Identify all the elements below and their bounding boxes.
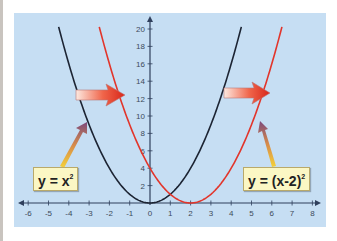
x-tick-label: 2 bbox=[188, 209, 193, 218]
pointer-arrow-left bbox=[60, 122, 87, 168]
equation-label-y-equals-x-squared: y = x2 bbox=[33, 167, 78, 191]
y-axis-up-arrow-icon bbox=[147, 16, 153, 22]
equation-exponent: 2 bbox=[301, 173, 305, 180]
y-tick-label: 4 bbox=[141, 164, 146, 173]
y-tick-label: 18 bbox=[136, 42, 145, 51]
equation-label-y-equals-x-minus-2-squared: y = (x-2)2 bbox=[243, 167, 310, 191]
y-tick-label: 12 bbox=[136, 95, 145, 104]
x-tick-label: -3 bbox=[86, 209, 94, 218]
equation-text: y = (x-2) bbox=[248, 173, 301, 189]
x-tick-label: -2 bbox=[106, 209, 114, 218]
x-tick-label: 4 bbox=[229, 209, 234, 218]
pointer-arrow-right bbox=[258, 121, 276, 167]
shift-arrow-right bbox=[224, 82, 270, 104]
x-tick-label: 7 bbox=[290, 209, 295, 218]
x-tick-label: -1 bbox=[126, 209, 134, 218]
equation-exponent: 2 bbox=[70, 173, 74, 180]
shift-arrow-left bbox=[76, 84, 125, 106]
x-tick-label: 1 bbox=[168, 209, 173, 218]
x-axis-left-arrow-icon bbox=[18, 200, 24, 206]
y-tick-label: 16 bbox=[136, 60, 145, 69]
y-tick-label: 2 bbox=[141, 182, 146, 191]
x-tick-label: -4 bbox=[65, 209, 73, 218]
y-tick-label: 20 bbox=[136, 25, 145, 34]
y-tick-label: 14 bbox=[136, 77, 145, 86]
x-tick-label: 5 bbox=[249, 209, 254, 218]
parabola-chart: -6-5-4-3-2-1012345678 2468101214161820 bbox=[0, 0, 337, 241]
x-tick-label: 3 bbox=[209, 209, 214, 218]
x-tick-label: 6 bbox=[270, 209, 275, 218]
x-tick-label: 0 bbox=[148, 209, 153, 218]
x-tick-label: -5 bbox=[45, 209, 53, 218]
y-tick-label: 8 bbox=[141, 129, 146, 138]
y-tick-label: 10 bbox=[136, 112, 145, 121]
equation-text: y = x bbox=[38, 173, 70, 189]
x-axis-right-arrow-icon bbox=[315, 200, 321, 206]
x-tick-label: -6 bbox=[25, 209, 33, 218]
x-tick-label: 8 bbox=[310, 209, 315, 218]
